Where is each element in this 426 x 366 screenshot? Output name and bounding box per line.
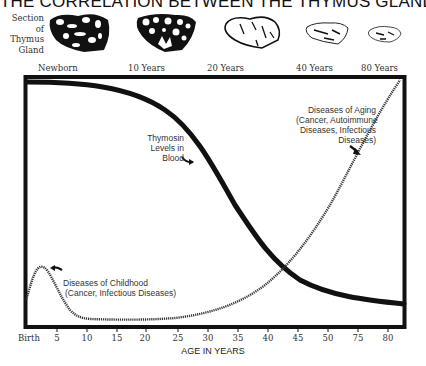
chart-plot <box>0 0 426 366</box>
annotation-line: (Cancer, Autoimmune <box>296 115 376 125</box>
x-tick-label: 50 <box>323 333 334 343</box>
x-axis-ticks <box>57 329 388 332</box>
annotation-line: Levels in <box>130 143 184 153</box>
thymosin-arrowhead-icon <box>189 159 194 165</box>
annotation-line: Diseases of Childhood <box>63 278 176 288</box>
x-tick-label: 45 <box>293 333 304 343</box>
x-tick-label: 20 <box>140 333 151 343</box>
annotation-line: Diseases) <box>296 135 376 145</box>
annotation-line: Diseases, Infectious <box>296 125 376 135</box>
x-tick-label: 40 <box>263 333 274 343</box>
x-tick-label: 15 <box>112 333 123 343</box>
annotation-line: (Cancer, Infectious Diseases) <box>63 288 176 298</box>
childhood-annotation: Diseases of Childhood (Cancer, Infectiou… <box>63 278 176 298</box>
annotation-line: Blood <box>130 153 184 163</box>
annotation-line: Thymosin <box>130 133 184 143</box>
x-tick-label: Birth <box>18 333 40 343</box>
x-tick-label: 25 <box>173 333 184 343</box>
x-tick-label: 80 <box>383 333 394 343</box>
aging-annotation: Diseases of Aging (Cancer, Autoimmune Di… <box>296 105 376 145</box>
thymosin-annotation: Thymosin Levels in Blood <box>130 133 184 163</box>
x-tick-label: 5 <box>54 333 59 343</box>
x-tick-label: 30 <box>203 333 214 343</box>
x-tick-label: 35 <box>233 333 244 343</box>
x-axis-title: AGE IN YEARS <box>0 346 426 356</box>
x-tick-label: 10 <box>82 333 93 343</box>
annotation-line: Diseases of Aging <box>296 105 376 115</box>
childhood-arrowhead-icon <box>50 265 55 271</box>
x-tick-label: 75 <box>353 333 364 343</box>
